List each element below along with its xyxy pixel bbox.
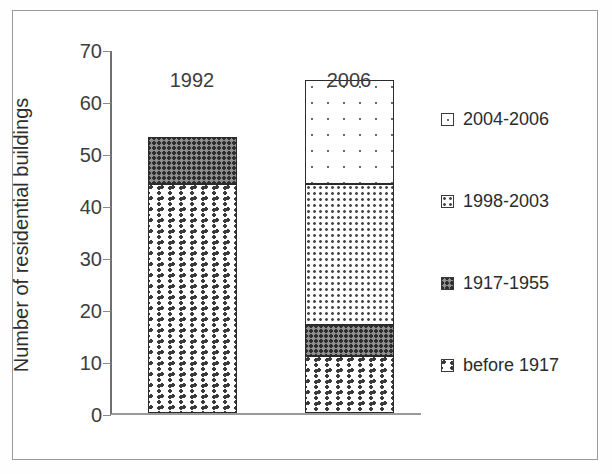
- legend-item-1917-1955[interactable]: 1917-1955: [441, 271, 549, 295]
- y-tick-label-30: 30: [54, 248, 102, 271]
- legend-swatch-1998-2003-icon: [441, 195, 454, 208]
- y-tick-20: [103, 311, 111, 312]
- y-tick-30: [103, 259, 111, 260]
- legend-item-1998-2003[interactable]: 1998-2003: [441, 189, 549, 213]
- legend-swatch-1917-1955-icon: [441, 277, 454, 290]
- y-tick-label-40: 40: [54, 196, 102, 219]
- y-tick-10: [103, 363, 111, 364]
- legend-item-before-1917[interactable]: before 1917: [441, 353, 559, 377]
- y-tick-60: [103, 103, 111, 104]
- y-tick-0: [103, 415, 111, 416]
- y-tick-label-10: 10: [54, 352, 102, 375]
- bar-1992-segment-1917-1955[interactable]: [148, 137, 237, 184]
- y-tick-label-60: 60: [54, 92, 102, 115]
- y-tick-70: [103, 51, 111, 52]
- legend-swatch-2004-2006-icon: [441, 113, 454, 126]
- bar-2006-segment-before-1917[interactable]: [305, 356, 394, 413]
- bar-2006-segment-1917-1955[interactable]: [305, 325, 394, 356]
- legend-item-2004-2006[interactable]: 2004-2006: [441, 107, 549, 131]
- y-tick-label-70: 70: [54, 40, 102, 63]
- y-tick-label-0: 0: [54, 404, 102, 427]
- x-tick-label-1992: 1992: [122, 69, 262, 92]
- y-axis-title: Number of residential buildings: [10, 53, 33, 417]
- bar-2006-segment-2004-2006[interactable]: [305, 80, 394, 184]
- y-tick-label-50: 50: [54, 144, 102, 167]
- legend-label-before-1917: before 1917: [463, 355, 559, 376]
- chart-frame: Number of residential buildings 70 60 50…: [12, 10, 598, 460]
- bar-2006-segment-1998-2003[interactable]: [305, 184, 394, 324]
- bar-1992[interactable]: [148, 137, 237, 413]
- y-tick-50: [103, 155, 111, 156]
- bar-1992-segment-before-1917[interactable]: [148, 184, 237, 413]
- scanned-page: Number of residential buildings 70 60 50…: [0, 0, 612, 474]
- x-tick-label-2006: 2006: [279, 69, 419, 92]
- y-tick-40: [103, 207, 111, 208]
- legend-label-2004-2006: 2004-2006: [463, 109, 549, 130]
- legend-label-1998-2003: 1998-2003: [463, 191, 549, 212]
- legend-swatch-before-1917-icon: [441, 359, 454, 372]
- y-tick-label-20: 20: [54, 300, 102, 323]
- legend-label-1917-1955: 1917-1955: [463, 273, 549, 294]
- plot-area: 70 60 50 40 30 20 10 0: [110, 51, 421, 415]
- scan-artifact-text: [0, 0, 612, 10]
- bar-2006[interactable]: [305, 80, 394, 413]
